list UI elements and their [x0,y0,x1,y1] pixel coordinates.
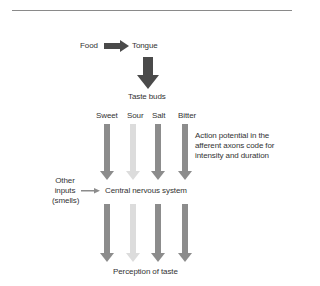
tongue-label: Tongue [132,41,158,51]
perception-label: Perception of taste [113,267,178,277]
bitter-label: Bitter [178,111,196,121]
cns-label: Central nervous system [105,186,187,196]
other-inputs-arrow [81,188,100,193]
food-label: Food [80,41,98,51]
annotation-line-3: intensity and duration [195,151,274,161]
taste-buds-label: Taste buds [128,92,166,102]
other-inputs-line-1: Other [52,176,78,186]
bitter-lower-arrow [178,204,192,262]
salt-label: Salt [152,111,165,121]
other-inputs-line-3: (smells) [52,196,78,206]
other-inputs-line-2: inputs [52,186,78,196]
salt-upper-arrow [151,124,165,180]
sour-upper-arrow [126,124,140,180]
salt-lower-arrow [151,204,165,262]
annotation-line-2: afferent axons code for [195,141,274,151]
other-inputs-label: Other inputs (smells) [52,176,78,206]
sour-lower-arrow [126,204,140,262]
annotation-line-1: Action potential in the [195,131,274,141]
action-potential-annotation: Action potential in the afferent axons c… [195,131,274,161]
tongue-to-tastebuds-arrow [137,57,159,89]
bitter-upper-arrow [178,124,192,180]
sweet-upper-arrow [100,124,114,180]
sweet-lower-arrow [100,204,114,262]
sour-label: Sour [127,111,144,121]
sweet-label: Sweet [96,111,118,121]
food-to-tongue-arrow [104,40,129,52]
